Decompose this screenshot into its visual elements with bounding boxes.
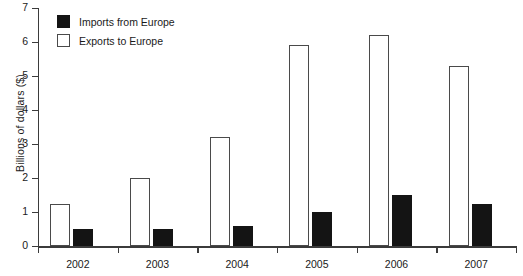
x-tick-label-2002: 2002 <box>38 258 118 270</box>
y-tick-label-1: 1 <box>22 205 28 218</box>
bar-imports-2006 <box>392 195 412 246</box>
chart-legend: Imports from Europe Exports to Europe <box>57 12 175 50</box>
x-tick-4 <box>357 246 358 253</box>
y-tick-label-3: 3 <box>22 137 28 150</box>
x-tick-6 <box>516 246 517 253</box>
y-tick-4: 4 <box>32 110 38 111</box>
y-tick-label-0: 0 <box>22 239 28 252</box>
y-tick-7: 7 <box>32 8 38 9</box>
y-tick-label-2: 2 <box>22 171 28 184</box>
y-tick-label-6: 6 <box>22 35 28 48</box>
legend-label-imports: Imports from Europe <box>79 16 175 28</box>
x-tick-3 <box>277 246 278 253</box>
y-tick-label-4: 4 <box>22 103 28 116</box>
y-tick-5: 5 <box>32 76 38 77</box>
legend-swatch-exports-icon <box>57 34 70 47</box>
x-tick-label-2007: 2007 <box>436 258 516 270</box>
bar-exports-2007 <box>449 66 469 246</box>
bar-imports-2004 <box>233 226 253 246</box>
x-tick-label-2006: 2006 <box>357 258 437 270</box>
bar-imports-2002 <box>73 229 93 246</box>
bar-exports-2004 <box>210 137 230 246</box>
x-tick-5 <box>436 246 437 253</box>
y-tick-2: 2 <box>32 178 38 179</box>
legend-label-exports: Exports to Europe <box>79 35 163 47</box>
bar-exports-2002 <box>50 204 70 247</box>
legend-item-imports: Imports from Europe <box>57 12 175 31</box>
x-tick-2 <box>197 246 198 253</box>
y-tick-label-5: 5 <box>22 69 28 82</box>
x-tick-label-2004: 2004 <box>197 258 277 270</box>
y-tick-6: 6 <box>32 42 38 43</box>
bar-exports-2006 <box>369 35 389 246</box>
bar-exports-2003 <box>130 178 150 246</box>
y-tick-1: 1 <box>32 212 38 213</box>
x-tick-1 <box>118 246 119 253</box>
y-tick-label-7: 7 <box>22 1 28 14</box>
bar-imports-2003 <box>153 229 173 246</box>
legend-swatch-imports-icon <box>57 15 70 28</box>
legend-item-exports: Exports to Europe <box>57 31 175 50</box>
y-tick-3: 3 <box>32 144 38 145</box>
bar-chart: Billions of dollars ($) 01234567 2002200… <box>0 0 523 276</box>
y-axis-line <box>38 8 39 246</box>
x-tick-label-2005: 2005 <box>277 258 357 270</box>
bar-imports-2007 <box>472 204 492 247</box>
x-tick-0 <box>38 246 39 253</box>
bar-exports-2005 <box>289 45 309 246</box>
x-tick-label-2003: 2003 <box>118 258 198 270</box>
bar-imports-2005 <box>312 212 332 246</box>
